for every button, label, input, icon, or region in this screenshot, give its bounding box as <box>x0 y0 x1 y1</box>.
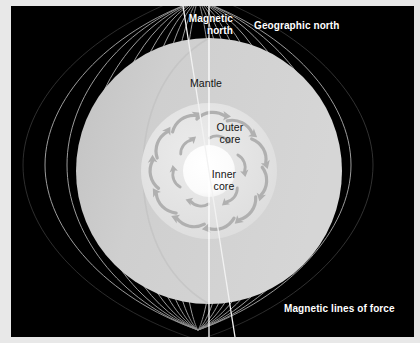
diagram-panel: Magnetic north Geographic north Magnetic… <box>11 6 414 337</box>
magnetic-field-diagram: Magnetic north Geographic north Magnetic… <box>0 0 420 343</box>
axis-lines <box>11 6 414 337</box>
